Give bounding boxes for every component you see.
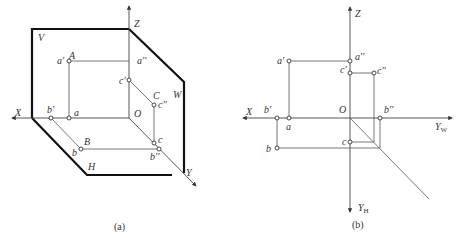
label-a: a (74, 107, 79, 118)
label-h-plane: H (87, 161, 96, 172)
label-c-prime: c' (119, 75, 126, 86)
label-b-dprime: b'' (384, 104, 394, 115)
label-a-dprime: a'' (137, 55, 147, 66)
label-z: Z (134, 18, 140, 29)
projector-b (51, 118, 81, 149)
point-b-prime (49, 116, 53, 120)
label-b: b (72, 147, 77, 158)
point-c-prime (348, 71, 352, 75)
point-a-dprime (348, 59, 352, 63)
label-c-prime: c' (340, 64, 347, 75)
figure-a: Z V W H X Y O a' A a'' a b' B b b'' c' C… (12, 6, 196, 233)
miter-line-45 (350, 118, 429, 199)
point-c-prime (127, 78, 131, 82)
label-origin: O (134, 108, 141, 119)
caption-a: (a) (114, 221, 125, 233)
label-origin: O (339, 104, 346, 115)
label-x: X (245, 106, 253, 117)
point-a-prime (287, 59, 291, 63)
point-c (348, 140, 352, 144)
projection-diagram: Z V W H X Y O a' A a'' a b' B b b'' c' C… (0, 0, 459, 238)
label-y: Y (186, 167, 193, 178)
point-b-dprime (378, 116, 382, 120)
point-b-prime (275, 116, 279, 120)
label-b-prime: b' (264, 104, 272, 115)
h-plane-outline (32, 118, 172, 175)
label-z: Z (355, 8, 361, 19)
label-c: c (158, 134, 163, 145)
point-a (287, 116, 291, 120)
point-b (79, 147, 83, 151)
figure-b: Z X O YW YH a' a'' a b' b b'' c' c'' c (… (243, 7, 452, 231)
label-yw: YW (435, 121, 448, 134)
label-b-prime: b' (47, 104, 55, 115)
label-A: A (68, 50, 76, 61)
caption-b: (b) (352, 219, 364, 231)
label-b-dprime: b'' (150, 151, 160, 162)
label-a-dprime: a'' (355, 51, 365, 62)
label-v-plane: V (38, 32, 46, 43)
point-c (152, 141, 156, 145)
label-x: X (14, 107, 22, 118)
point-c-dprime (372, 71, 376, 75)
label-a-prime: a' (57, 55, 65, 66)
label-b: b (266, 143, 271, 154)
label-c-dprime: c'' (377, 65, 387, 76)
label-a-prime: a' (277, 55, 285, 66)
projector-c (129, 80, 154, 105)
label-w-plane: W (173, 89, 183, 100)
label-c-dprime: c'' (158, 99, 168, 110)
point-a (67, 116, 71, 120)
point-b (275, 146, 279, 150)
label-a: a (286, 121, 291, 132)
point-c-dprime (152, 103, 156, 107)
label-c: c (342, 136, 347, 147)
label-yh: YH (358, 202, 369, 215)
label-B: B (84, 136, 90, 147)
